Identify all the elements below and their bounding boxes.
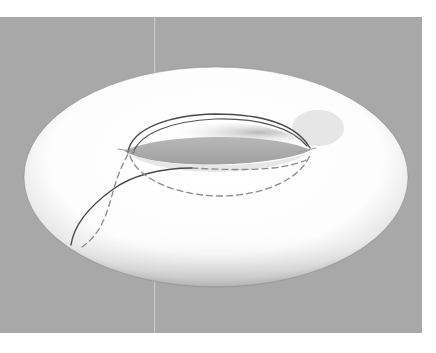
torus-body bbox=[24, 67, 408, 287]
torus-figure bbox=[0, 0, 436, 353]
